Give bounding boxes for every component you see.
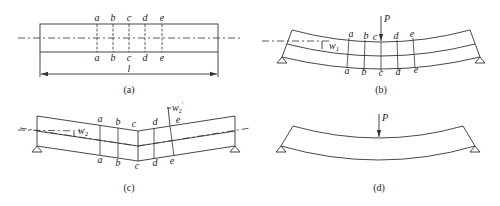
label-bottom-c: c (135, 160, 140, 171)
label-top-b: b (111, 12, 116, 23)
panel-d-loaded-beam: P (d) (276, 112, 480, 194)
label-top-e: e (160, 12, 165, 23)
length-label: l (128, 63, 131, 74)
load-label-p: P (381, 112, 388, 123)
caption-c: (c) (123, 182, 134, 194)
panel-b-bent-beam: w1 a b c d e a b c d e P (b) (262, 13, 485, 96)
beam-right-end (470, 30, 480, 57)
label-bottom-c: c (379, 67, 384, 78)
label-top-a: a (95, 12, 100, 23)
caption-a: (a) (123, 84, 134, 96)
caption-d: (d) (373, 182, 385, 194)
panel-a-straight-beam: a b c d e a b c d e l (a) (18, 12, 241, 96)
deflection-label-w2: w2 (78, 125, 89, 138)
label-top-b: b (364, 30, 369, 41)
label-bottom-b: b (111, 52, 116, 63)
beam-neutral-axis (37, 131, 235, 146)
beam-left-end (282, 30, 292, 57)
label-bottom-a: a (98, 154, 103, 165)
label-bottom-a: a (345, 65, 350, 76)
label-top-d: d (394, 30, 400, 41)
beam-right-end (463, 126, 475, 146)
deflection-label-w1: w1 (329, 40, 340, 53)
caption-b: (b) (375, 84, 387, 96)
beam-bottom-edge (37, 146, 235, 161)
section-line-a (347, 38, 349, 68)
label-bottom-b: b (116, 157, 121, 168)
load-label-p: P (383, 13, 390, 24)
label-bottom-d: d (396, 66, 402, 77)
label-bottom-e: e (414, 64, 419, 75)
label-bottom-d: d (153, 157, 159, 168)
original-axis-dashed-left (18, 130, 80, 131)
label-top-c: c (373, 31, 378, 42)
label-top-e: e (410, 28, 415, 39)
label-top-d: d (143, 12, 149, 23)
label-bottom-a: a (95, 52, 100, 63)
label-top-c: c (132, 118, 137, 129)
label-top-c: c (127, 12, 132, 23)
label-top-a: a (349, 28, 354, 39)
label-bottom-b: b (362, 66, 367, 77)
label-bottom-e: e (170, 155, 175, 166)
label-top-b: b (116, 116, 121, 127)
label-bottom-e: e (160, 52, 165, 63)
beam-top-edge (293, 126, 463, 138)
extended-axis-dashed-right (138, 128, 250, 146)
label-bottom-c: c (127, 52, 132, 63)
rotation-marker (168, 107, 170, 126)
label-bottom-d: d (143, 52, 149, 63)
label-top-a: a (98, 113, 103, 124)
deflection-label-w2-prime: w2′ (172, 100, 184, 114)
label-top-d: d (153, 116, 159, 127)
label-top-e: e (176, 114, 181, 125)
panel-c-kinked-beam: w2 w2′ a b c d e a b c d e (c) (18, 100, 250, 194)
beam-bottom-edge (281, 146, 475, 160)
beam-left-end (281, 126, 293, 146)
